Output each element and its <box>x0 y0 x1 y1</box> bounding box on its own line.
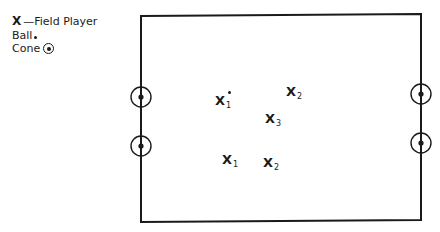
cone-left-lower <box>131 136 151 156</box>
player-x3: X3 <box>265 112 281 130</box>
player-number: 1 <box>226 101 231 110</box>
player-x2-bottom: X2 <box>263 156 279 174</box>
cone-right-upper <box>411 84 431 104</box>
player-number: 2 <box>297 92 302 101</box>
player-number: 3 <box>276 119 281 128</box>
player-symbol: X <box>263 155 273 170</box>
cone-left-upper <box>131 87 151 107</box>
player-symbol: X <box>222 152 232 167</box>
player-symbol: X <box>215 93 225 108</box>
player-x1-with-ball: X1 <box>215 94 231 112</box>
player-number: 1 <box>233 160 238 169</box>
ball-icon <box>228 91 231 94</box>
player-number: 2 <box>274 163 279 172</box>
player-x1-bottom: X1 <box>222 153 238 171</box>
player-symbol: X <box>265 111 275 126</box>
field-diagram <box>0 0 440 232</box>
cone-right-lower <box>411 133 431 153</box>
player-x2-top: X2 <box>286 85 302 103</box>
player-symbol: X <box>286 84 296 99</box>
